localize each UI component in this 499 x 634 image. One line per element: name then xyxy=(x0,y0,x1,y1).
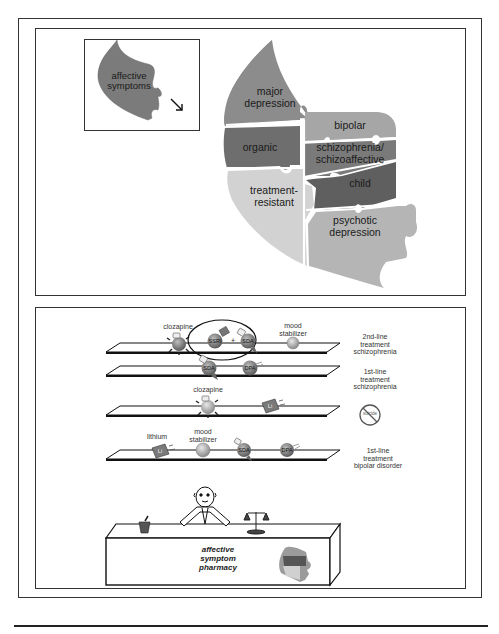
shelf-2 xyxy=(106,366,340,376)
label-line: schizophrenia xyxy=(345,348,405,356)
no-suicide-text: suicide xyxy=(360,412,380,417)
li-badge: Li xyxy=(153,448,167,454)
shelf-3-clozapine-caption: clozapine xyxy=(188,386,228,394)
ssri-badge: SSRI xyxy=(207,338,223,344)
caption-line2: stabilizer xyxy=(183,436,223,444)
caption-line1: mood xyxy=(183,428,223,436)
label-line: treatment xyxy=(345,341,405,349)
dpa-badge: DPA xyxy=(279,447,295,453)
shelf-1-label: 2nd-line treatment schizophrenia xyxy=(345,333,405,356)
shelf-1 xyxy=(106,343,340,353)
shelf-1-item-clozapine-caption: clozapine xyxy=(158,323,198,331)
bottom-separator xyxy=(14,625,488,627)
counter-line3: pharmacy xyxy=(188,564,248,573)
shelf-1-mood-stabilizer-caption: mood stabilizer xyxy=(273,322,313,337)
label-line: 1st-line xyxy=(345,447,411,455)
dpa-badge: DPA xyxy=(242,365,258,371)
li-badge: Li xyxy=(263,403,277,409)
shelf-4-lithium-caption: lithium xyxy=(142,433,172,441)
sda-badge: SDA xyxy=(240,338,256,344)
label-line: treatment xyxy=(345,376,405,384)
caption-line2: stabilizer xyxy=(273,330,313,338)
caption-line1: mood xyxy=(273,322,313,330)
sda-badge: SDA xyxy=(236,447,252,453)
shelf-4 xyxy=(106,450,340,460)
mortar-icon xyxy=(139,516,150,533)
plus-sign: + xyxy=(228,337,238,345)
label-line: schizophrenia xyxy=(345,383,405,391)
shelf-4-mood-stabilizer-caption: mood stabilizer xyxy=(183,428,223,443)
label-line: treatment xyxy=(345,455,411,463)
shelf-4-label: 1st-line treatment bipolar disorder xyxy=(345,447,411,470)
shelves-drawing xyxy=(0,0,499,634)
shelf-3 xyxy=(106,406,340,416)
sda-badge: SDA xyxy=(201,365,217,371)
mood-stabilizer-icon xyxy=(287,337,299,349)
pharmacist-icon xyxy=(180,487,230,526)
mood-stabilizer-icon xyxy=(196,443,210,457)
label-line: 1st-line xyxy=(345,368,405,376)
label-line: bipolar disorder xyxy=(345,462,411,470)
shelf-2-label: 1st-line treatment schizophrenia xyxy=(345,368,405,391)
pharmacy-counter-label: affective symptom pharmacy xyxy=(188,546,248,572)
label-line: 2nd-line xyxy=(345,333,405,341)
